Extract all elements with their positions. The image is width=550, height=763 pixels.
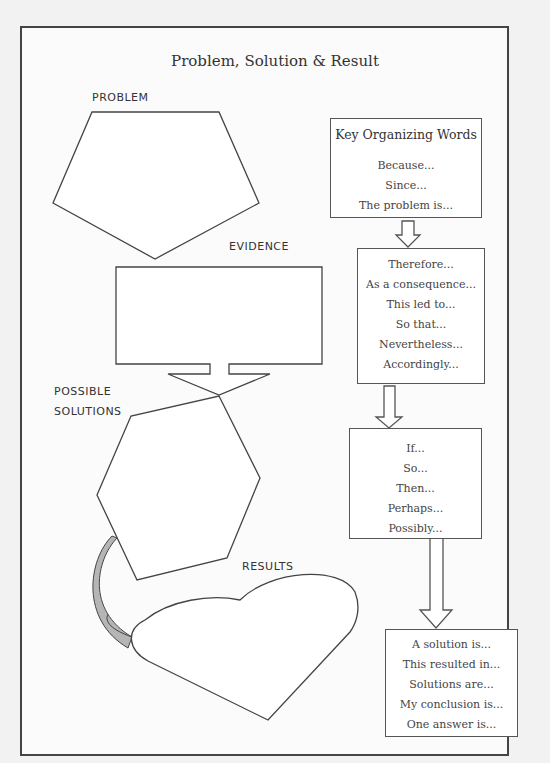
key-words-heading: Key Organizing Words — [331, 127, 481, 142]
problem-pentagon[interactable] — [53, 112, 259, 259]
key-word: My conclusion is... — [386, 695, 517, 715]
key-word: So... — [350, 459, 481, 479]
key-words-box-3: If... So... Then... Perhaps... Possibly.… — [349, 428, 482, 539]
key-word: Since... — [331, 176, 481, 196]
key-word: This resulted in... — [386, 655, 517, 675]
arrow-down-2 — [376, 386, 402, 428]
key-word: Solutions are... — [386, 675, 517, 695]
arrow-down-3 — [420, 538, 452, 628]
key-word: Accordingly... — [358, 355, 484, 375]
arrow-down-1 — [396, 221, 420, 247]
key-word: Then... — [350, 479, 481, 499]
evidence-box[interactable] — [116, 267, 322, 395]
key-word: One answer is... — [386, 715, 517, 735]
key-words-box-1: Key Organizing Words Because... Since...… — [330, 118, 482, 218]
results-heart[interactable] — [131, 574, 358, 720]
solutions-hexagon[interactable] — [97, 396, 260, 580]
key-words-box-2: Therefore... As a consequence... This le… — [357, 248, 485, 384]
key-word: Nevertheless... — [358, 335, 484, 355]
key-word: As a consequence... — [358, 275, 484, 295]
key-word: So that... — [358, 315, 484, 335]
key-word: Possibly... — [350, 519, 481, 539]
key-word: If... — [350, 439, 481, 459]
key-word: The problem is... — [331, 196, 481, 216]
key-word: Because... — [331, 156, 481, 176]
key-word: Therefore... — [358, 255, 484, 275]
key-words-box-4: A solution is... This resulted in... Sol… — [385, 629, 518, 737]
key-word: Perhaps... — [350, 499, 481, 519]
key-word: This led to... — [358, 295, 484, 315]
key-word: A solution is... — [386, 635, 517, 655]
